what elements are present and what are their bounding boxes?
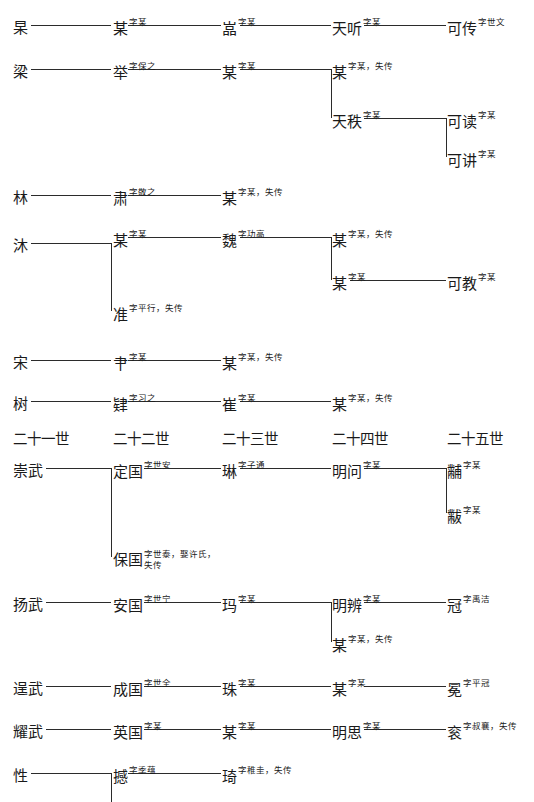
person-node: 某字某 [222, 64, 256, 81]
person-node: 天听字某 [332, 20, 381, 37]
connector-vertical [111, 468, 112, 557]
connector-horizontal [364, 686, 446, 687]
person-annotation: 字习之 [129, 393, 156, 404]
person-annotation: 字某 [478, 110, 496, 121]
person-name: 沐 [13, 237, 28, 255]
person-annotation: 字某 [363, 594, 381, 605]
person-node: 宋 [13, 355, 28, 371]
person-annotation: 字某 [348, 678, 366, 689]
person-name: 明思 [332, 724, 362, 742]
person-node: 黼字某 [447, 463, 481, 480]
person-name: 某 [332, 64, 347, 82]
person-node: 某字某，失传 [332, 637, 393, 654]
person-node: 肄字习之 [113, 396, 156, 413]
person-name: 某 [222, 355, 237, 373]
person-annotation: 字某，失传 [238, 187, 283, 198]
person-node: 某字某，失传 [222, 190, 283, 207]
person-node: 定国字世安 [113, 463, 171, 480]
person-name: 明辨 [332, 597, 362, 615]
person-name: 定国 [113, 463, 143, 481]
person-name: 黼 [447, 463, 462, 481]
person-node: 杲 [13, 20, 28, 36]
person-name: 林 [13, 189, 28, 207]
person-node: 某字某，失传 [332, 232, 393, 249]
person-node: 崔字某 [222, 396, 256, 413]
person-annotation: 字世泰，娶许氏，失传 [144, 549, 222, 570]
person-node: 冠字禹洁 [447, 597, 490, 614]
generation-header: 二十四世 [332, 432, 388, 447]
person-annotation: 字某 [238, 678, 256, 689]
person-name: 某 [332, 637, 347, 655]
person-node: 明思字某 [332, 724, 381, 741]
person-name: 黻 [447, 508, 462, 526]
connector-horizontal [46, 729, 111, 730]
person-node: 林 [13, 190, 28, 206]
person-node: 嵓字某 [222, 20, 256, 37]
person-annotation: 字世安 [144, 460, 171, 471]
person-name: 某 [113, 232, 128, 250]
person-name: 耀武 [13, 723, 43, 741]
person-node: 某字某，失传 [332, 64, 393, 81]
person-node: 某字某 [113, 20, 147, 37]
person-node: 明问字某 [332, 463, 381, 480]
generation-header: 二十五世 [447, 432, 503, 447]
person-name: 某 [332, 396, 347, 414]
person-node: 天秩字某 [332, 113, 381, 130]
person-name: 成国 [113, 681, 143, 699]
person-node: 玛字某 [222, 597, 256, 614]
person-name: 性 [13, 767, 28, 785]
person-annotation: 字某 [478, 272, 496, 283]
person-name: 珠 [222, 681, 237, 699]
person-annotation: 字某，失传 [348, 393, 393, 404]
person-name: 肀 [113, 355, 128, 373]
person-annotation: 字保之 [129, 61, 156, 72]
person-node: 举字保之 [113, 64, 156, 81]
person-node: 肃字敬之 [113, 190, 156, 207]
person-node: 树 [13, 396, 28, 412]
person-annotation: 字稚圭，失传 [238, 765, 292, 776]
person-name: 某 [332, 681, 347, 699]
person-name: 杲 [13, 19, 28, 37]
person-name: 英国 [113, 724, 143, 742]
person-annotation: 字某 [129, 229, 147, 240]
person-node: 衮字叔襄，失传 [447, 724, 517, 741]
person-annotation: 字世全 [144, 678, 171, 689]
person-node: 某字某 [332, 681, 366, 698]
genealogy-chart: 二十一世二十二世二十三世二十四世二十五世杲某字某嵓字某天听字某可传字世文梁举字保… [0, 0, 534, 802]
connector-vertical [111, 773, 112, 802]
person-node: 某字某，失传 [332, 396, 393, 413]
person-annotation: 字世宁 [144, 594, 171, 605]
person-annotation: 字某 [363, 460, 381, 471]
person-name: 琳 [222, 463, 237, 481]
person-node: 扬武 [13, 597, 43, 613]
person-name: 某 [222, 64, 237, 82]
person-name: 某 [332, 275, 347, 293]
person-node: 准字平行，失传 [113, 306, 183, 323]
connector-horizontal [31, 243, 111, 244]
person-annotation: 字某 [238, 594, 256, 605]
person-node: 可讲字某 [447, 152, 496, 169]
person-node: 逞武 [13, 681, 43, 697]
person-annotation: 字某，失传 [348, 229, 393, 240]
person-annotation: 字某 [238, 721, 256, 732]
person-annotation: 字敬之 [129, 187, 156, 198]
person-annotation: 字某，失传 [348, 634, 393, 645]
person-name: 某 [222, 190, 237, 208]
person-name: 琦 [222, 768, 237, 786]
person-node: 魏字功高 [222, 232, 265, 249]
person-name: 冠 [447, 597, 462, 615]
person-name: 举 [113, 64, 128, 82]
person-name: 可讲 [447, 152, 477, 170]
person-node: 沐 [13, 238, 28, 254]
generation-header: 二十一世 [13, 432, 69, 447]
person-name: 撼 [113, 768, 128, 786]
person-name: 宋 [13, 354, 28, 372]
person-annotation: 字某 [238, 393, 256, 404]
person-name: 某 [113, 20, 128, 38]
person-name: 崔 [222, 396, 237, 414]
person-node: 性 [13, 768, 28, 784]
person-name: 天听 [332, 20, 362, 38]
person-node: 某字某，失传 [222, 355, 283, 372]
person-annotation: 字功高 [238, 229, 265, 240]
person-name: 天秩 [332, 113, 362, 131]
